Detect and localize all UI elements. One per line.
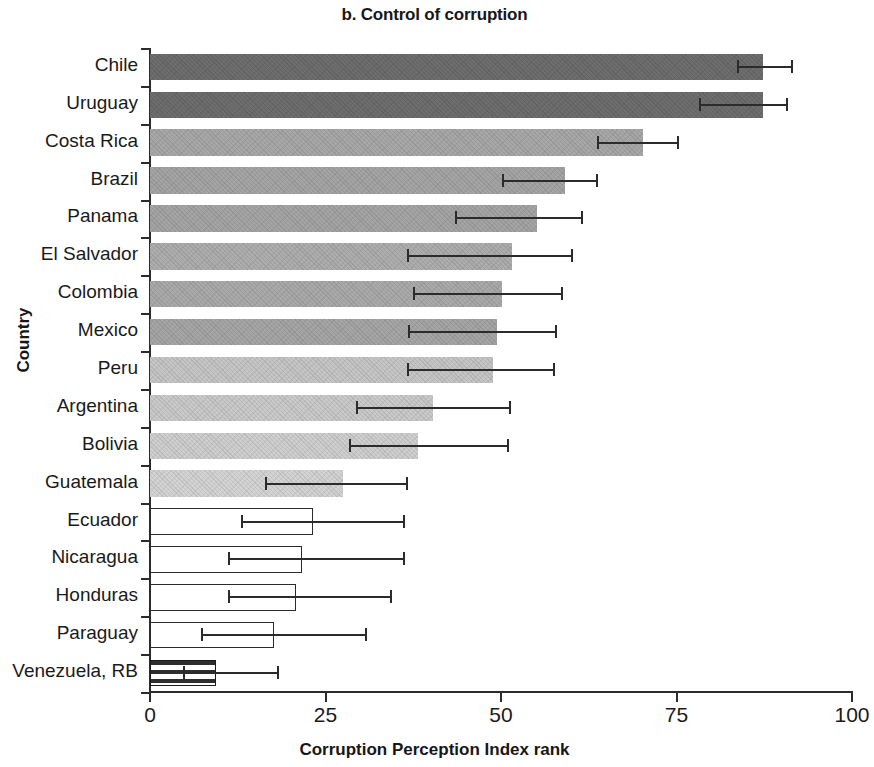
- error-bar-cap-high: [390, 590, 392, 603]
- error-bar-line: [356, 407, 510, 409]
- x-axis-tick-label: 50: [461, 703, 541, 727]
- y-axis-category-label: Costa Rica: [0, 130, 138, 152]
- error-bar-line: [241, 521, 404, 523]
- y-axis-tick: [141, 540, 150, 542]
- y-axis-category-label: Honduras: [0, 584, 138, 606]
- error-bar-cap-high: [406, 477, 408, 490]
- error-bar-cap-high: [791, 60, 793, 73]
- x-axis-tick: [325, 693, 327, 702]
- y-axis-tick: [141, 351, 150, 353]
- x-axis-tick: [676, 693, 678, 702]
- y-axis-category-label: Nicaragua: [0, 546, 138, 568]
- error-bar-cap-low: [183, 666, 185, 679]
- y-axis-tick: [141, 427, 150, 429]
- y-axis-tick: [141, 275, 150, 277]
- error-bar-cap-high: [277, 666, 279, 679]
- error-bar-cap-low: [408, 325, 410, 338]
- error-bar-line: [597, 142, 678, 144]
- error-bar-cap-low: [349, 439, 351, 452]
- error-bar-cap-high: [403, 515, 405, 528]
- error-bar-cap-high: [677, 136, 679, 149]
- y-axis-tick: [141, 86, 150, 88]
- y-axis-category-label: Chile: [0, 54, 138, 76]
- y-axis-tick: [141, 200, 150, 202]
- error-bar-cap-low: [356, 401, 358, 414]
- error-bar-line: [737, 66, 792, 68]
- error-bar-line: [349, 445, 508, 447]
- y-axis-tick: [141, 124, 150, 126]
- y-axis-title: Country: [14, 280, 34, 400]
- error-bar-line: [228, 596, 391, 598]
- error-bar-cap-high: [596, 174, 598, 187]
- x-axis-tick-label: 75: [637, 703, 717, 727]
- y-axis-tick: [141, 313, 150, 315]
- error-bar-cap-high: [581, 211, 583, 224]
- y-axis-category-label: Panama: [0, 205, 138, 227]
- error-bar-line: [699, 104, 787, 106]
- bar: [150, 129, 643, 156]
- x-axis-tick-label: 0: [110, 703, 190, 727]
- bar: [150, 92, 763, 119]
- x-axis-title: Corruption Perception Index rank: [0, 740, 869, 760]
- x-axis-tick-label: 100: [812, 703, 874, 727]
- error-bar-cap-high: [571, 249, 573, 262]
- x-axis-tick: [500, 693, 502, 702]
- error-bar-line: [455, 217, 582, 219]
- error-bar-cap-low: [241, 515, 243, 528]
- error-bar-cap-low: [228, 590, 230, 603]
- bar-texture: [150, 92, 763, 119]
- y-axis-tick: [141, 162, 150, 164]
- error-bar-cap-high: [561, 287, 563, 300]
- error-bar-line: [408, 331, 555, 333]
- x-axis-tick: [851, 693, 853, 702]
- error-bar-cap-low: [407, 249, 409, 262]
- y-axis-category-label: Bolivia: [0, 433, 138, 455]
- error-bar-cap-high: [555, 325, 557, 338]
- error-bar-cap-low: [201, 628, 203, 641]
- error-bar-cap-low: [737, 60, 739, 73]
- error-bar-cap-low: [407, 363, 409, 376]
- y-axis-tick: [141, 654, 150, 656]
- y-axis-category-label: Venezuela, RB: [0, 660, 138, 682]
- error-bar-line: [413, 293, 562, 295]
- bar: [150, 54, 763, 81]
- y-axis-tick: [141, 389, 150, 391]
- y-axis-tick: [141, 48, 150, 50]
- error-bar-line: [201, 634, 366, 636]
- bar-texture: [150, 54, 763, 81]
- y-axis-category-label: El Salvador: [0, 243, 138, 265]
- y-axis-tick: [141, 578, 150, 580]
- error-bar-cap-high: [509, 401, 511, 414]
- error-bar-cap-low: [228, 552, 230, 565]
- error-bar-cap-high: [786, 98, 788, 111]
- y-axis-tick: [141, 503, 150, 505]
- error-bar-cap-low: [502, 174, 504, 187]
- error-bar-cap-high: [507, 439, 509, 452]
- error-bar-cap-high: [553, 363, 555, 376]
- bar-texture: [150, 129, 643, 156]
- error-bar-line: [265, 483, 407, 485]
- chart-title: b. Control of corruption: [0, 5, 869, 25]
- y-axis-tick: [141, 237, 150, 239]
- x-axis-tick: [149, 693, 151, 702]
- error-bar-cap-low: [413, 287, 415, 300]
- error-bar-cap-high: [403, 552, 405, 565]
- error-bar-cap-low: [265, 477, 267, 490]
- y-axis-tick: [141, 465, 150, 467]
- error-bar-line: [407, 255, 572, 257]
- error-bar-line: [183, 672, 278, 674]
- error-bar-line: [228, 558, 404, 560]
- y-axis-category-label: Brazil: [0, 168, 138, 190]
- y-axis-category-label: Ecuador: [0, 509, 138, 531]
- y-axis-category-label: Guatemala: [0, 471, 138, 493]
- y-axis-category-label: Uruguay: [0, 92, 138, 114]
- error-bar-line: [502, 180, 597, 182]
- y-axis-tick: [141, 616, 150, 618]
- x-axis-tick-label: 25: [286, 703, 366, 727]
- y-axis-category-label: Paraguay: [0, 622, 138, 644]
- error-bar-cap-low: [699, 98, 701, 111]
- error-bar-cap-low: [455, 211, 457, 224]
- error-bar-line: [407, 369, 554, 371]
- error-bar-cap-high: [365, 628, 367, 641]
- error-bar-cap-low: [597, 136, 599, 149]
